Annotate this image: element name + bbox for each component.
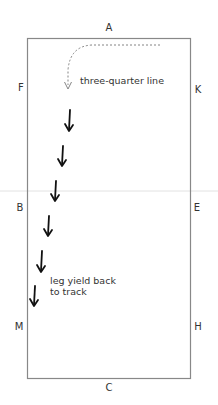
marker-B: B	[17, 202, 24, 213]
marker-A: A	[106, 22, 113, 33]
marker-C: C	[106, 382, 113, 393]
leg-yield-label-line1: leg yield back	[50, 275, 116, 286]
dressage-arena-diagram: A C F B M K E H three-quarter line leg y…	[0, 0, 218, 405]
down-arrow-icon	[44, 216, 52, 236]
dashed-arrowhead-icon	[65, 82, 72, 89]
marker-E: E	[194, 202, 200, 213]
marker-M: M	[15, 321, 24, 332]
down-arrow-icon	[58, 146, 66, 166]
down-arrow-icon	[37, 251, 45, 272]
marker-K: K	[195, 84, 202, 95]
leg-yield-label-line2: to track	[50, 286, 87, 297]
down-arrow-icon	[65, 110, 73, 131]
marker-H: H	[194, 321, 202, 332]
arena-boundary	[28, 39, 191, 379]
marker-F: F	[18, 82, 24, 93]
three-quarter-line-label: three-quarter line	[80, 75, 164, 86]
down-arrow-icon	[30, 286, 38, 306]
